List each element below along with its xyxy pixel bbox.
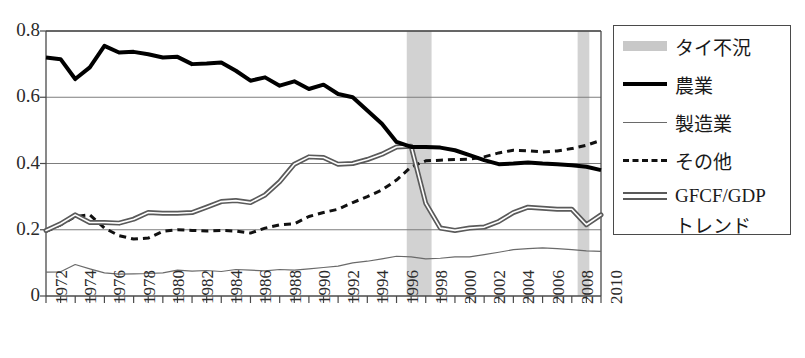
gridlines-group — [46, 31, 601, 230]
x-tick-label: 1986 — [256, 270, 276, 304]
chart-figure: 00.20.40.60.8 19721974197619781980198219… — [0, 0, 805, 358]
y-tick-label: 0 — [0, 284, 40, 306]
x-tick-label: 1998 — [432, 270, 452, 304]
dashed-line-swatch — [623, 150, 669, 170]
x-tick-label: 1978 — [140, 270, 160, 304]
x-tick-label: 2000 — [461, 270, 481, 304]
data-series-group — [46, 46, 601, 274]
x-tick-label: 2004 — [519, 270, 539, 304]
double-line-swatch-mark — [623, 192, 667, 200]
x-tick-label: 1982 — [198, 270, 218, 304]
legend-item-label: GFCF/GDP — [675, 185, 766, 207]
x-tick-label: 1984 — [227, 270, 247, 304]
legend-item-label-line2: トレンド — [675, 211, 751, 238]
x-axis-ticks — [40, 31, 601, 303]
chart-legend: タイ不況農業製造業その他GFCF/GDPトレンド — [613, 25, 791, 235]
y-tick-label: 0.2 — [0, 218, 40, 240]
series-line-agriculture — [46, 46, 601, 170]
double-line-swatch — [623, 186, 669, 206]
legend-item: その他 — [623, 147, 732, 173]
y-tick-label: 0.4 — [0, 152, 40, 174]
x-tick-label: 1976 — [110, 270, 130, 304]
band-swatch — [623, 36, 669, 56]
x-tick-label: 1972 — [52, 270, 72, 304]
thin-line-swatch-mark — [623, 122, 667, 123]
legend-item-label: タイ不況 — [675, 33, 751, 60]
thin-line-swatch — [623, 112, 669, 132]
x-tick-label: 1980 — [169, 270, 189, 304]
legend-item-label: 製造業 — [675, 109, 732, 136]
y-tick-label: 0.6 — [0, 85, 40, 107]
thick-line-swatch-mark — [623, 82, 667, 86]
x-tick-label: 1994 — [373, 270, 393, 304]
series-line-gfcf-gdp-trend-outer — [46, 146, 601, 230]
x-tick-label: 1992 — [344, 270, 364, 304]
x-tick-label: 1988 — [286, 270, 306, 304]
x-tick-label: 2008 — [578, 270, 598, 304]
legend-item-label: その他 — [675, 147, 732, 174]
legend-item: タイ不況 — [623, 33, 751, 59]
x-tick-label: 2010 — [607, 270, 627, 304]
x-tick-label: 2002 — [490, 270, 510, 304]
x-tick-label: 1974 — [81, 270, 101, 304]
x-tick-label: 2006 — [549, 270, 569, 304]
dashed-line-swatch-mark — [623, 159, 667, 162]
band-swatch-mark — [623, 41, 667, 51]
legend-item-label: 農業 — [675, 71, 713, 98]
x-tick-label: 1996 — [403, 270, 423, 304]
x-tick-label: 1990 — [315, 270, 335, 304]
legend-item: 農業 — [623, 71, 713, 97]
legend-item: 製造業 — [623, 109, 732, 135]
thick-line-swatch — [623, 74, 669, 94]
legend-item: GFCF/GDP — [623, 183, 766, 209]
y-tick-label: 0.8 — [0, 19, 40, 41]
